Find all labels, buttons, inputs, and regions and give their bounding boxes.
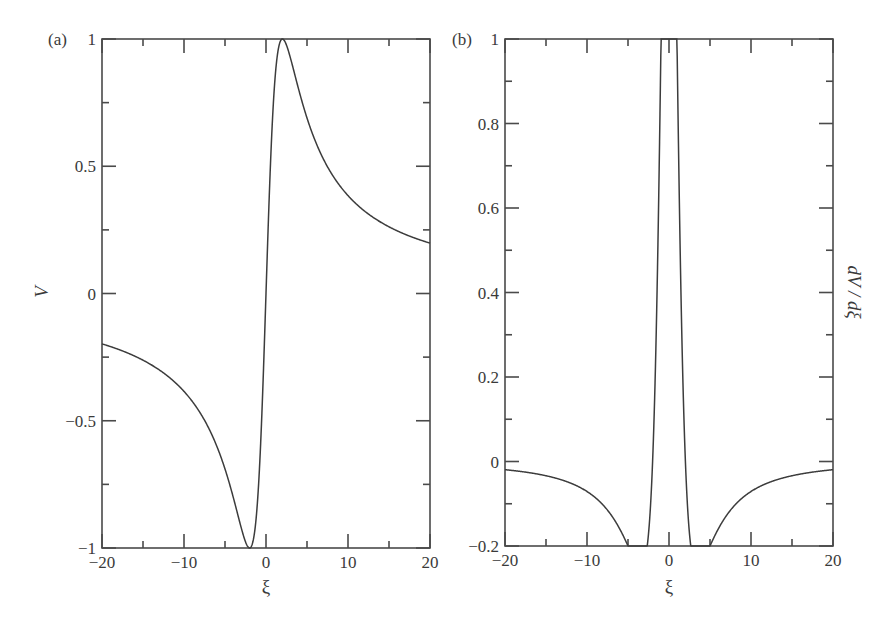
x-tick-label: −10	[171, 553, 198, 572]
y-tick-label: 0	[88, 285, 97, 304]
panel-b-curve	[505, 39, 833, 546]
y-tick-label: 0.2	[478, 368, 499, 387]
figure: −20−1001020−1−0.500.51 (a) V ξ −20−10010…	[0, 0, 890, 632]
y-tick-label: −1	[78, 539, 96, 558]
panel-b-ticks	[505, 39, 833, 546]
panel-b-tick-labels: −20−1001020−0.200.20.40.60.81	[468, 30, 841, 570]
y-tick-label: 1	[88, 30, 97, 49]
y-tick-label: 0.4	[478, 284, 500, 303]
x-tick-label: 0	[665, 551, 674, 570]
y-tick-label: 0.5	[75, 157, 96, 176]
panel-a: −20−1001020−1−0.500.51 (a) V ξ	[31, 30, 438, 597]
panel-a-curve	[102, 39, 430, 548]
panel-a-tag: (a)	[48, 30, 67, 49]
panel-a-y-axis-label: V	[31, 284, 52, 298]
panel-b-tag: (b)	[452, 30, 472, 49]
x-tick-label: 10	[340, 553, 357, 572]
y-tick-label: −0.2	[468, 537, 499, 556]
y-tick-label: 0.6	[478, 199, 499, 218]
panel-a-tick-labels: −20−1001020−1−0.500.51	[65, 30, 438, 572]
x-tick-label: −10	[574, 551, 601, 570]
y-tick-label: 0	[491, 453, 500, 472]
y-tick-label: 1	[491, 30, 500, 49]
panel-b-frame	[505, 39, 833, 546]
panel-b: −20−1001020−0.200.20.40.60.81 (b) dV / d…	[452, 30, 865, 597]
panel-b-y-axis-label: dV / dξ	[844, 265, 865, 319]
panel-a-x-axis-label: ξ	[262, 576, 271, 597]
x-tick-label: 10	[743, 551, 760, 570]
x-tick-label: 20	[422, 553, 439, 572]
y-tick-label: −0.5	[65, 412, 96, 431]
x-tick-label: 20	[825, 551, 842, 570]
y-tick-label: 0.8	[478, 115, 499, 134]
panel-b-x-axis-label: ξ	[665, 576, 674, 597]
x-tick-label: 0	[262, 553, 271, 572]
